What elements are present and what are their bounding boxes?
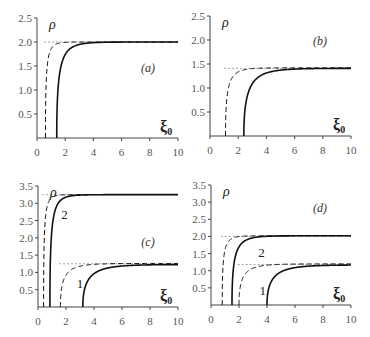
x-axis-label: ξ0 (160, 118, 172, 137)
curve-number-label: 2 (61, 207, 68, 222)
y-tick-label: 1.5 (192, 248, 206, 260)
x-tick-label: 2 (236, 313, 242, 325)
x-tick-label: 10 (173, 146, 185, 158)
curve-number-label: 2 (258, 245, 265, 260)
x-tick-label: 8 (147, 315, 153, 327)
y-axis-label: ρ (221, 15, 229, 30)
x-tick-label: 8 (320, 144, 326, 156)
y-tick-label: 1.0 (191, 82, 205, 94)
x-tick-label: 6 (119, 315, 125, 327)
y-tick-label: 2.0 (191, 34, 205, 46)
y-tick-label: 1.0 (192, 265, 206, 277)
x-tick-label: 0 (208, 313, 214, 325)
y-tick-label: 1.5 (18, 60, 32, 72)
panel-a: 0.51.01.52.02.50246810ρξ0(a) (18, 12, 184, 158)
x-tick-label: 0 (35, 315, 41, 327)
x-tick-label: 4 (264, 144, 270, 156)
y-tick-label: 2.5 (192, 213, 206, 225)
x-axis-label: ξ0 (160, 287, 172, 306)
curve-number-label: 1 (260, 283, 267, 298)
x-tick-label: 4 (91, 315, 97, 327)
x-tick-label: 10 (346, 313, 358, 325)
y-tick-label: 0.5 (191, 106, 205, 118)
y-tick-label: 2.5 (191, 10, 205, 22)
panel-c: 0.51.01.52.02.53.03.50246810ρξ0(c)21 (19, 180, 184, 327)
y-tick-label: 0.5 (192, 282, 206, 294)
y-tick-label: 1.0 (18, 84, 32, 96)
x-tick-label: 6 (292, 313, 298, 325)
y-tick-label: 0.5 (18, 108, 32, 120)
y-tick-label: 3.0 (192, 196, 206, 208)
x-tick-label: 6 (119, 146, 125, 158)
x-tick-label: 8 (147, 146, 153, 158)
x-axis-label: ξ0 (333, 116, 345, 135)
dashed-curve (45, 42, 178, 138)
x-tick-label: 10 (173, 315, 185, 327)
y-tick-label: 3.5 (192, 179, 206, 191)
figure: 0.51.01.52.02.50246810ρξ0(a)0.51.01.52.0… (0, 0, 370, 337)
y-tick-label: 3.0 (19, 197, 33, 209)
y-tick-label: 2.0 (192, 230, 206, 242)
panel-tag: (a) (141, 61, 155, 75)
y-tick-label: 0.5 (19, 284, 33, 296)
panel-tag: (d) (313, 201, 327, 215)
panel-b: 0.51.01.52.02.50246810ρξ0(b) (191, 10, 357, 156)
y-tick-label: 2.0 (18, 36, 32, 48)
y-tick-label: 2.0 (19, 232, 33, 244)
x-tick-label: 4 (264, 313, 270, 325)
x-tick-label: 8 (320, 313, 326, 325)
panel-d: 0.51.01.52.02.53.03.50246810ρξ0(d)21 (192, 179, 357, 325)
x-tick-label: 2 (235, 144, 241, 156)
y-tick-label: 1.5 (191, 58, 205, 70)
panel-tag: (c) (141, 235, 154, 249)
y-tick-label: 1.5 (19, 249, 33, 261)
y-axis-label: ρ (49, 185, 57, 200)
curve-number-label: 1 (77, 276, 84, 291)
y-tick-label: 3.5 (19, 180, 33, 192)
x-tick-label: 4 (91, 146, 97, 158)
y-tick-label: 2.5 (18, 12, 32, 24)
x-tick-label: 2 (63, 315, 69, 327)
x-tick-label: 6 (292, 144, 298, 156)
x-tick-label: 0 (34, 146, 40, 158)
x-tick-label: 0 (207, 144, 213, 156)
y-tick-label: 1.0 (19, 266, 33, 278)
x-tick-label: 10 (346, 144, 358, 156)
y-axis-label: ρ (48, 17, 56, 32)
x-axis-label: ξ0 (333, 285, 345, 304)
panel-tag: (b) (313, 34, 327, 48)
y-tick-label: 2.5 (19, 215, 33, 227)
solid-curve (50, 195, 178, 307)
y-axis-label: ρ (222, 184, 230, 199)
x-tick-label: 2 (62, 146, 68, 158)
